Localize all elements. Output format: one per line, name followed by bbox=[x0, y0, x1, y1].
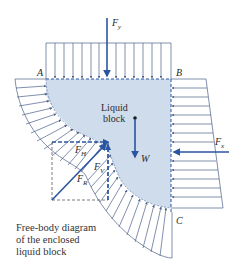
figure-caption: Free-body diagram of the enclosed liquid… bbox=[16, 222, 96, 258]
fy-label: Fy bbox=[111, 17, 122, 31]
caption-line-1: Free-body diagram bbox=[16, 222, 96, 234]
top-pressure-distribution bbox=[46, 43, 171, 79]
point-a-label: A bbox=[36, 67, 44, 78]
caption-line-3: liquid block bbox=[16, 246, 96, 258]
liquid-block-label-line1: Liquid bbox=[101, 102, 128, 113]
point-b-label: B bbox=[176, 67, 182, 78]
point-c-label: C bbox=[176, 215, 183, 226]
fr-label: FR bbox=[76, 173, 88, 187]
caption-line-2: of the enclosed bbox=[16, 234, 96, 246]
fx-label: Fx bbox=[214, 136, 225, 150]
liquid-block-label-line2: block bbox=[103, 113, 125, 124]
